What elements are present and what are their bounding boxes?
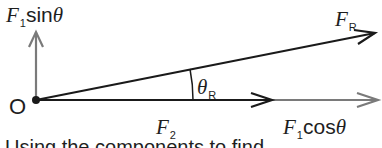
subscript: R <box>208 89 216 101</box>
theta-symbol: θ <box>53 3 63 27</box>
origin-point <box>32 96 40 104</box>
theta-symbol: θ <box>336 115 346 139</box>
f-symbol: F <box>6 3 19 27</box>
fr-label: FR <box>335 8 357 30</box>
f-symbol: F <box>335 7 348 31</box>
subscript: 1 <box>20 17 26 29</box>
f1-sin-label: F1sinθ <box>6 4 63 26</box>
origin-label: O <box>9 96 26 118</box>
function-name: cos <box>303 115 336 138</box>
subscript: 1 <box>297 129 303 141</box>
theta-r-label: θR <box>197 76 216 98</box>
f1-cos-label: F1cosθ <box>283 116 346 138</box>
theta-symbol: θ <box>197 75 207 99</box>
subscript: R <box>349 21 357 33</box>
f2-label: F2 <box>156 116 176 138</box>
caption-text: Using the components to find ... <box>5 136 286 148</box>
function-name: sin <box>26 3 53 26</box>
angle-arc <box>190 69 193 100</box>
